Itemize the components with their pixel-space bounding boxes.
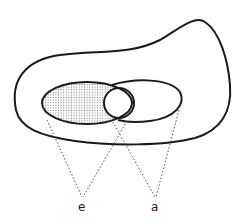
label-e: e [78,200,85,214]
projection-line-e-right [83,121,127,197]
label-a: a [151,200,158,214]
projection-line-a-left [113,122,155,197]
venn-diagram: e a [0,0,242,224]
projection-line-a-right [156,110,179,197]
projection-line-e-left [47,120,82,197]
